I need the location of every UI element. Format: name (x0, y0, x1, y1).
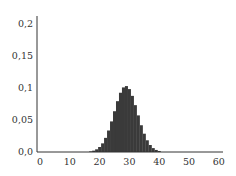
y-tick-label: 0,2 (18, 18, 33, 29)
histogram-bar (104, 138, 107, 152)
histogram-bar (134, 105, 137, 152)
y-tick-label: 0,15 (12, 50, 33, 61)
y-tick-label: 0,05 (12, 114, 33, 125)
y-tick-label: 0,1 (18, 82, 33, 93)
histogram-bar (101, 143, 104, 152)
x-tick-label: 60 (213, 156, 225, 167)
histogram-bar (146, 140, 149, 152)
histogram-bar (140, 125, 143, 152)
histogram-bar (113, 111, 116, 152)
y-axis-tick-labels: 0,00,050,10,150,2 (12, 18, 33, 157)
x-tick-label: 50 (183, 156, 195, 167)
histogram-chart: 0,00,050,10,150,2 0102030405060 (0, 0, 236, 176)
x-tick-label: 0 (37, 156, 43, 167)
histogram-bar (98, 147, 101, 152)
histogram-bar (143, 134, 146, 152)
histogram-bar (149, 145, 152, 152)
histogram-bar (110, 121, 113, 152)
histogram-bars (89, 86, 161, 152)
histogram-bar (107, 131, 110, 153)
histogram-bar (137, 115, 140, 152)
histogram-bar (119, 93, 122, 152)
x-tick-label: 40 (153, 156, 165, 167)
x-tick-label: 30 (123, 156, 135, 167)
histogram-bar (131, 96, 134, 152)
histogram-bar (125, 86, 128, 152)
x-tick-label: 10 (64, 156, 76, 167)
histogram-bar (116, 101, 119, 152)
histogram-bar (152, 148, 155, 152)
histogram-bar (122, 87, 125, 152)
histogram-bar (128, 89, 131, 152)
y-tick-label: 0,0 (18, 146, 33, 157)
x-tick-label: 20 (94, 156, 106, 167)
x-axis-tick-labels: 0102030405060 (37, 156, 225, 167)
